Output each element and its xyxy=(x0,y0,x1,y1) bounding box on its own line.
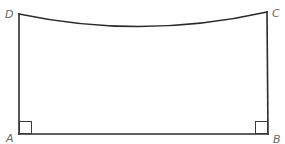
right-angle-mark-b xyxy=(256,122,268,134)
vertex-label-a: A xyxy=(5,132,14,144)
vertex-label-b: B xyxy=(273,133,281,144)
vertex-label-d: D xyxy=(5,8,13,21)
right-angle-mark-a xyxy=(20,122,32,134)
edge-bc xyxy=(267,12,268,134)
vertex-label-c: C xyxy=(272,7,280,20)
edge-dc-curve xyxy=(19,12,267,27)
quadrilateral-diagram: D C A B xyxy=(0,0,285,144)
